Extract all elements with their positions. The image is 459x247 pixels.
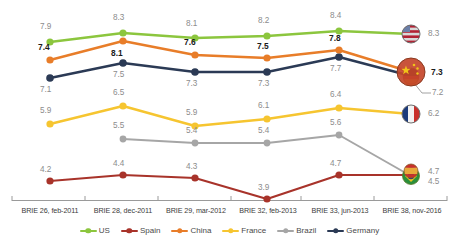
data-label-germany-2: 7.3 (186, 79, 197, 88)
legend-label-china: China (190, 226, 211, 235)
data-label-france-1: 6.5 (113, 88, 124, 97)
data-label-germany-5: 7.2 (432, 88, 443, 97)
series-spain (46, 171, 411, 202)
data-label-china-0: 7.4 (38, 42, 50, 52)
legend-label-germany: Germany (346, 226, 379, 235)
data-label-spain-0: 4.2 (40, 165, 51, 174)
data-label-us-0: 7.9 (40, 22, 51, 31)
data-label-brazil-0: 5.5 (113, 121, 124, 130)
us-flag-icon (402, 25, 420, 43)
data-label-china-3: 7.5 (257, 41, 269, 51)
legend-item-spain[interactable]: Spain (121, 226, 160, 235)
legend-swatch-germany-icon (327, 230, 344, 232)
data-label-germany-1: 7.5 (113, 70, 124, 79)
legend-label-france: France (241, 226, 266, 235)
series-us (46, 27, 411, 45)
data-label-france-3: 6.1 (258, 101, 269, 110)
data-label-germany-4: 7.7 (330, 64, 341, 73)
data-label-us-2: 8.1 (186, 19, 197, 28)
data-label-us-1: 8.3 (113, 13, 124, 22)
data-label-spain-4: 4.7 (330, 159, 341, 168)
legend-label-us: US (99, 226, 110, 235)
legend-label-spain: Spain (140, 226, 160, 235)
series-france (46, 102, 411, 129)
legend-swatch-china-icon (171, 230, 188, 232)
legend-item-germany[interactable]: Germany (327, 226, 379, 235)
data-label-brazil-1: 5.4 (186, 126, 197, 135)
data-label-spain-2: 4.3 (186, 162, 197, 171)
data-label-china-4: 7.8 (329, 33, 341, 43)
legend-swatch-us-icon (80, 230, 97, 232)
data-label-china-1: 8.1 (111, 48, 123, 58)
data-label-brazil-3: 5.6 (330, 118, 341, 127)
data-label-spain-1: 4.4 (113, 159, 124, 168)
china-flag-icon (397, 58, 425, 86)
data-label-spain-3: 3.9 (258, 183, 269, 192)
data-label-us-3: 8.2 (258, 16, 269, 25)
legend-swatch-brazil-icon (277, 230, 294, 232)
data-label-spain-5: 4.7 (428, 167, 439, 176)
legend-item-france[interactable]: France (222, 226, 266, 235)
legend-item-us[interactable]: US (80, 226, 110, 235)
legend-swatch-france-icon (222, 230, 239, 232)
legend-swatch-spain-icon (121, 230, 138, 232)
data-label-us-5: 8.3 (428, 29, 439, 38)
data-label-france-5: 6.2 (428, 109, 439, 118)
spain-flag-icon (404, 164, 418, 178)
series-brazil (120, 132, 411, 176)
legend-item-brazil[interactable]: Brazil (277, 226, 316, 235)
data-label-germany-0: 7.1 (40, 85, 51, 94)
legend-label-brazil: Brazil (296, 226, 316, 235)
legend-item-china[interactable]: China (171, 226, 211, 235)
data-label-us-4: 8.4 (330, 11, 341, 20)
data-label-brazil-4: 4.5 (428, 177, 439, 186)
data-label-france-2: 5.9 (186, 108, 197, 117)
x-axis-label-5: BRIE 38, nov-2016 (368, 206, 456, 215)
data-label-china-2: 7.6 (184, 37, 196, 47)
data-label-germany-3: 7.3 (258, 79, 269, 88)
line-chart: 7.9 8.3 8.1 8.2 8.4 8.3 7.4 8.1 7.6 7.5 … (0, 0, 459, 247)
data-label-france-4: 6.4 (330, 90, 341, 99)
data-label-france-0: 5.9 (40, 106, 51, 115)
chart-legend: US Spain China France Brazil Germany (0, 226, 459, 235)
data-label-china-5: 7.3 (431, 67, 443, 77)
data-label-brazil-2: 5.4 (258, 126, 269, 135)
france-flag-icon (402, 105, 420, 123)
